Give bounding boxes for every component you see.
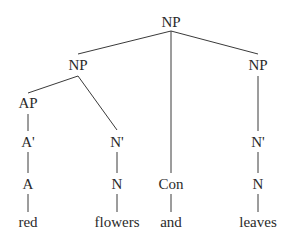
word-red: red [18, 215, 37, 230]
word-and: and [160, 215, 182, 230]
node-left-np: NP [68, 58, 87, 73]
branch-left-np-nbar [78, 76, 117, 130]
node-right-n: N [253, 177, 264, 192]
branch-root-right-np [171, 31, 258, 54]
word-leaves: leaves [239, 215, 276, 230]
node-left-n: N [112, 177, 123, 192]
node-a-bar: A' [21, 135, 35, 150]
node-a: A [23, 177, 34, 192]
node-root-np: NP [161, 15, 180, 30]
word-flowers: flowers [95, 215, 140, 230]
node-right-n-bar: N' [251, 135, 265, 150]
node-left-n-bar: N' [110, 135, 124, 150]
node-ap: AP [18, 96, 37, 111]
syntax-tree: NP NP NP AP A' N' N' A N Con N red flowe… [0, 0, 294, 243]
branch-root-left-np [78, 31, 171, 54]
branch-left-np-ap [28, 76, 78, 93]
tree-branches [0, 0, 294, 243]
node-con: Con [158, 177, 183, 192]
node-right-np: NP [248, 58, 267, 73]
